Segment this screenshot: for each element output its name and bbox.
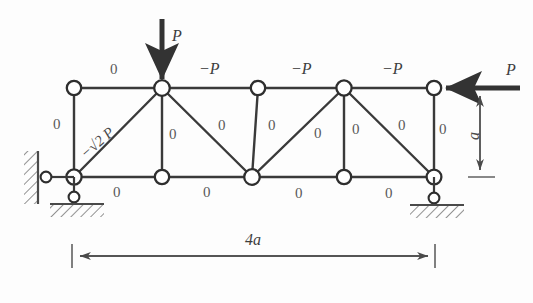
label-load-vertical-P: P bbox=[172, 28, 182, 44]
vertical-members bbox=[74, 88, 434, 177]
label-height-dimension: a bbox=[466, 132, 482, 140]
label-member-top-2: −P bbox=[199, 61, 220, 77]
node-top-3 bbox=[251, 81, 265, 95]
node-top-1 bbox=[67, 81, 81, 95]
label-member-top-3: −P bbox=[291, 61, 312, 77]
label-member-diagonal-3: 0 bbox=[314, 126, 322, 141]
node-bottom-2 bbox=[155, 170, 169, 184]
label-member-vertical-4: 0 bbox=[352, 122, 360, 137]
right-support-ground-hatch bbox=[410, 205, 464, 218]
node-bottom-4 bbox=[337, 170, 351, 184]
label-member-vertical-5: 0 bbox=[439, 122, 447, 137]
left-support-ground-pin bbox=[69, 192, 80, 203]
node-top-5 bbox=[427, 81, 441, 95]
label-member-top-4: −P bbox=[382, 61, 403, 77]
left-support-ground-hatch bbox=[50, 204, 104, 217]
label-load-horizontal-P: P bbox=[506, 62, 516, 78]
label-member-diagonal-4: 0 bbox=[398, 118, 406, 133]
member-diagonal-3 bbox=[252, 88, 344, 177]
label-member-diagonal-2: 0 bbox=[218, 118, 226, 133]
left-support bbox=[24, 151, 104, 217]
node-top-2 bbox=[154, 80, 170, 96]
label-span-dimension: 4a bbox=[245, 232, 261, 248]
right-support-pin bbox=[429, 193, 440, 204]
label-member-bottom-4: 0 bbox=[385, 186, 393, 201]
left-support-wall-pin bbox=[41, 172, 52, 183]
label-member-vertical-3: 0 bbox=[268, 118, 276, 133]
label-member-top-1: 0 bbox=[110, 62, 118, 77]
label-member-bottom-2: 0 bbox=[203, 185, 211, 200]
left-support-wall-hatch bbox=[24, 151, 38, 204]
member-vertical-3 bbox=[252, 88, 258, 177]
label-member-bottom-1: 0 bbox=[113, 185, 121, 200]
member-diagonal-1 bbox=[74, 88, 162, 177]
node-top-4 bbox=[336, 80, 351, 95]
label-member-bottom-3: 0 bbox=[295, 186, 303, 201]
node-bottom-3 bbox=[244, 169, 260, 185]
truss-figure: P P 0 −P −P −P 0 0 0 0 0 0 0 0 0 −√2 P 0… bbox=[0, 0, 533, 303]
label-member-vertical-1: 0 bbox=[53, 117, 61, 132]
label-member-vertical-2: 0 bbox=[169, 127, 177, 142]
